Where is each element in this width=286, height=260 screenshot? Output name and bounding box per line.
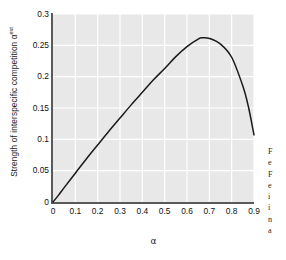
y-axis-tick-label: 0.15	[16, 104, 49, 113]
y-axis-tick-label: 0.2	[16, 72, 49, 81]
y-axis-tick-labels: 00.050.10.150.20.250.3	[16, 0, 49, 260]
y-axis-tick-label: 0.3	[16, 10, 49, 19]
line-path	[53, 38, 254, 202]
x-axis-tick-labels: 00.10.20.30.40.50.60.70.80.9	[0, 206, 286, 220]
y-axis-title-superscript: est	[8, 27, 14, 34]
y-axis-tick-label: 0.05	[16, 166, 49, 175]
x-axis-tick-label: 0.9	[239, 206, 269, 216]
x-axis-title-text: α	[151, 236, 157, 246]
x-axis-title: α	[53, 236, 254, 246]
plot-area	[53, 14, 254, 202]
side-body-text: F e F e i i n a	[268, 146, 286, 260]
x-axis-line	[51, 202, 254, 204]
y-axis-tick-label: 0.1	[16, 135, 49, 144]
figure-container: Strength of interspecific competition αe…	[0, 0, 286, 260]
y-axis-tick-label: 0.25	[16, 41, 49, 50]
data-series-curve	[53, 14, 254, 202]
